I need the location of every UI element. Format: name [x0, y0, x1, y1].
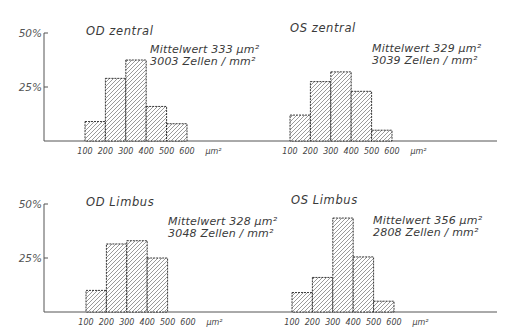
x-tick-label: 500: [160, 318, 175, 327]
histogram-bar: [167, 124, 187, 141]
x-tick-label: 400: [139, 147, 154, 156]
chart-root: 25%50%25%50%OD zentralMittelwert 333 µm²…: [19, 21, 497, 327]
x-tick-label: 300: [119, 318, 134, 327]
x-tick-label: 600: [179, 147, 194, 156]
histogram-bar: [331, 72, 351, 141]
x-tick-label: 500: [159, 147, 174, 156]
x-tick-label: 600: [384, 147, 399, 156]
x-tick-label: 200: [98, 147, 113, 156]
histogram-bar: [147, 258, 167, 312]
histogram-bar: [333, 218, 353, 312]
histogram-figure: 25%50%25%50%OD zentralMittelwert 333 µm²…: [0, 0, 510, 333]
x-tick-label: 600: [180, 318, 195, 327]
x-unit-label: µm²: [409, 147, 427, 156]
x-tick-label: 300: [325, 318, 340, 327]
histogram-bar: [86, 290, 106, 312]
x-unit-label: µm²: [204, 147, 222, 156]
histogram-bar: [372, 130, 392, 141]
x-tick-label: 100: [284, 318, 299, 327]
histogram-bar: [105, 78, 125, 141]
y-tick-label: 25%: [19, 252, 42, 264]
x-tick-label: 600: [386, 318, 401, 327]
x-tick-label: 400: [140, 318, 155, 327]
x-unit-label: µm²: [411, 318, 429, 327]
x-tick-label: 200: [305, 318, 320, 327]
histogram-bar: [290, 115, 310, 141]
panel-title: OD Limbus: [86, 195, 154, 209]
x-tick-label: 500: [366, 318, 381, 327]
panel-title: OS Limbus: [291, 193, 358, 207]
panel-title: OS zentral: [290, 21, 356, 35]
x-tick-label: 200: [303, 147, 318, 156]
y-tick-label: 25%: [19, 81, 42, 93]
x-tick-label: 100: [282, 147, 297, 156]
x-unit-label: µm²: [205, 318, 223, 327]
x-tick-label: 100: [78, 318, 93, 327]
histogram-bar: [106, 244, 126, 312]
histogram-bar: [127, 241, 147, 312]
histogram-bar: [353, 257, 373, 312]
x-tick-label: 200: [99, 318, 114, 327]
histogram-bar: [351, 91, 371, 141]
x-tick-label: 100: [77, 147, 92, 156]
histogram-bar: [126, 60, 146, 141]
y-tick-label: 50%: [19, 198, 42, 210]
histogram-bar: [292, 293, 312, 312]
x-tick-label: 400: [344, 147, 359, 156]
histogram-bar: [85, 122, 105, 141]
density-annotation: 2808 Zellen / mm²: [373, 226, 479, 239]
x-tick-label: 300: [118, 147, 133, 156]
density-annotation: 3039 Zellen / mm²: [372, 54, 478, 67]
panel-title: OD zentral: [86, 24, 154, 38]
x-tick-label: 500: [364, 147, 379, 156]
y-tick-label: 50%: [19, 27, 42, 39]
histogram-bar: [310, 82, 330, 141]
x-tick-label: 300: [323, 147, 338, 156]
density-annotation: 3003 Zellen / mm²: [150, 55, 256, 68]
histogram-bar: [312, 277, 332, 312]
x-tick-label: 400: [346, 318, 361, 327]
histogram-canvas: 25%50%25%50%OD zentralMittelwert 333 µm²…: [0, 0, 510, 333]
histogram-bar: [374, 301, 394, 312]
histogram-bar: [146, 106, 166, 141]
density-annotation: 3048 Zellen / mm²: [168, 227, 274, 240]
